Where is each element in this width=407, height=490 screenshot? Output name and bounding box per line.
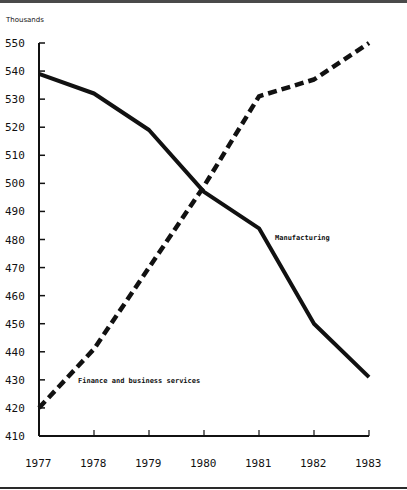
y-tick-label: 430 [5,374,25,387]
series-lines [39,43,369,408]
y-tick-label: 420 [5,402,25,415]
x-tick-label: 1979 [135,457,162,470]
x-tick-label: 1980 [190,457,217,470]
y-tick-label: 480 [5,234,25,247]
line-chart: Thousands 410420430440450460470480490500… [0,0,407,490]
series-line-manufacturing [39,74,369,377]
x-tick-label: 1982 [300,457,327,470]
y-tick-label: 520 [5,121,25,134]
y-axis-unit-label: Thousands [5,16,44,24]
series-label-finance: Finance and business services [78,377,200,385]
y-tick-label: 550 [5,37,25,50]
y-tick-label: 500 [5,177,25,190]
y-tick-label: 540 [5,65,25,78]
y-tick-label: 530 [5,93,25,106]
series-line-finance-and-business-services [39,43,369,408]
y-tick-label: 410 [5,430,25,443]
x-tick-label: 1981 [245,457,272,470]
y-tick-label: 470 [5,262,25,275]
y-tick-label: 440 [5,346,25,359]
y-tick-label: 510 [5,149,25,162]
y-tick-label: 490 [5,205,25,218]
x-tick-label: 1978 [80,457,107,470]
y-tick-label: 460 [5,290,25,303]
y-tick-label: 450 [5,318,25,331]
x-tick-label: 1977 [25,457,52,470]
x-tick-label: 1983 [355,457,382,470]
axes: 4104204304404504604704804905005105205305… [5,37,382,470]
series-label-manufacturing: Manufacturing [275,234,330,242]
